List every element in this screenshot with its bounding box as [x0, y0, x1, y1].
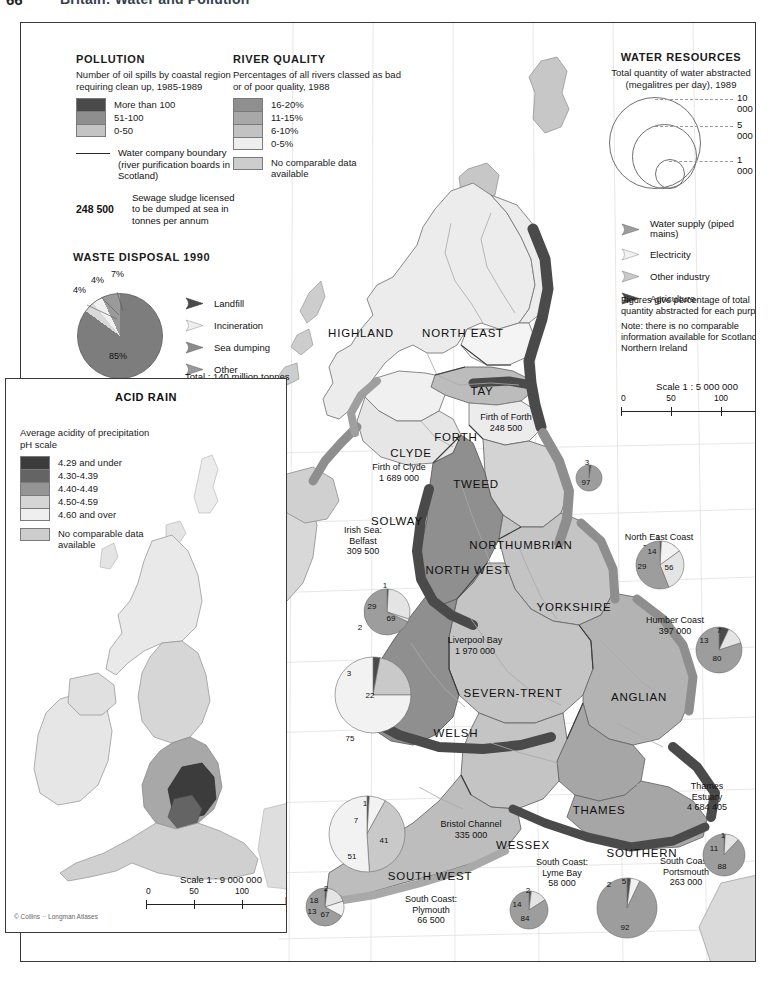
scale-tick — [242, 900, 243, 909]
sludge-label-6: Thames Estuary4 684 405 — [683, 781, 731, 813]
sludge-label-0: Firth of Forth248 500 — [480, 412, 532, 433]
sludge-label-2: Irish Sea:Belfast309 500 — [344, 525, 382, 557]
pie-value-northumbrian-1: 14 — [648, 547, 657, 556]
scale-bar-line — [146, 904, 287, 905]
region-label-highland: HIGHLAND — [328, 327, 394, 339]
pie-chart-north-west — [363, 588, 411, 636]
acid-nodata-label: No comparable data available — [58, 528, 150, 550]
pie-value-south-west-large-2: 41 — [380, 836, 389, 845]
scale-label-0: 0 — [146, 886, 151, 896]
pie-value-south-west-large-1: 7 — [354, 816, 358, 825]
swatch-label: 4.60 and over — [58, 509, 116, 520]
pie-value-southern-small-1: 11 — [710, 844, 718, 853]
region-label-severn-trent: SEVERN-TRENT — [463, 687, 562, 699]
scale-tick — [194, 900, 195, 909]
page-title: Britain: Water and Pollution — [60, 0, 249, 7]
swatch-label: 4.50-4.59 — [58, 496, 98, 507]
region-label-north-east: NORTH EAST — [422, 327, 504, 339]
pie-value-portsmouth-2: 92 — [621, 923, 630, 932]
legend-item: 4.40-4.49 — [20, 482, 180, 495]
pie-value-welsh-0: 3 — [347, 669, 351, 678]
region-label-forth: FORTH — [434, 431, 477, 443]
scale-label-150: 150 km — [285, 886, 287, 906]
swatch-acid-0 — [20, 456, 50, 469]
scale-9m-ruler: 0 50 100 150 km — [146, 895, 287, 911]
pie-value-north-west-0: 1 — [383, 581, 387, 590]
region-label-yorkshire: YORKSHIRE — [537, 601, 612, 613]
pie-value-portsmouth-0: 2 — [607, 880, 611, 889]
scale-9m-title: Scale 1 : 9 000 000 — [146, 874, 287, 885]
region-label-tweed: TWEED — [453, 478, 499, 490]
swatch-acid-nodata — [20, 528, 50, 541]
swatch-label: 4.29 and under — [58, 457, 122, 468]
pie-value-south-west-large-0: 1 — [363, 799, 367, 808]
page-folio-number: 66 — [6, 0, 23, 8]
pie-value-north-west-3: 69 — [387, 614, 396, 623]
region-label-anglian: ANGLIAN — [611, 691, 667, 703]
swatch-label: 4.40-4.49 — [58, 483, 98, 494]
scale-label-50: 50 — [189, 886, 198, 896]
pie-value-lyme-bay-2: 84 — [521, 914, 530, 923]
pie-value-southern-small-2: 88 — [718, 862, 727, 871]
pie-value-plymouth-0: 2 — [324, 884, 328, 893]
pie-value-humber-coast-0: 7 — [717, 626, 721, 635]
region-label-wessex: WESSEX — [496, 839, 550, 851]
legend-item: 4.60 and over — [20, 508, 180, 521]
pie-value-portsmouth-1: 5 — [622, 877, 626, 886]
pie-value-north-east-coast-1: 97 — [582, 478, 591, 487]
pie-value-welsh-1: 22 — [366, 691, 375, 700]
scale-tick — [146, 900, 147, 909]
region-label-thames: THAMES — [573, 804, 626, 816]
legend-item: 4.29 and under — [20, 456, 180, 469]
acid-subtitle-2: pH scale — [20, 439, 180, 451]
region-label-welsh: WELSH — [434, 727, 479, 739]
page-header: 66 Britain: Water and Pollution — [0, 0, 776, 14]
pie-chart-lyme-bay — [509, 890, 549, 930]
pie-value-southern-small-0: 1 — [721, 831, 725, 840]
pie-value-north-west-1: 29 — [368, 602, 377, 611]
scale-bar-9m: Scale 1 : 9 000 000 0 50 100 150 km — [146, 874, 287, 911]
sludge-label-1: Firth of Clyde1 689 000 — [372, 462, 426, 483]
swatch-label: 4.30-4.39 — [58, 470, 98, 481]
swatch-acid-2 — [20, 482, 50, 495]
pie-value-humber-coast-1: 13 — [700, 636, 709, 645]
pie-value-humber-coast-2: 80 — [713, 654, 722, 663]
pie-value-northumbrian-0: 1 — [656, 533, 660, 542]
sludge-label-4: Liverpool Bay1 970 000 — [448, 635, 503, 656]
pie-value-north-east-coast-0: 3 — [585, 458, 589, 467]
acid-subtitle-1: Average acidity of precipitation — [20, 427, 180, 439]
pie-value-welsh-2: 75 — [346, 734, 355, 743]
acid-rain-title: ACID RAIN — [6, 391, 286, 403]
legend-item: 4.30-4.39 — [20, 469, 180, 482]
pie-value-lyme-bay-0: 2 — [526, 886, 530, 895]
sludge-label-7: Bristol Channel335 000 — [440, 819, 501, 840]
copyright-notice: © Collins ·· Longman Atlases — [14, 913, 98, 920]
swatch-acid-1 — [20, 469, 50, 482]
sludge-label-8: South Coast:Lyme Bay58 000 — [536, 857, 588, 889]
pie-value-lyme-bay-1: 14 — [513, 900, 522, 909]
scale-label-100: 100 — [235, 886, 249, 896]
pie-value-north-west-2: 2 — [358, 623, 362, 632]
region-label-tay: TAY — [470, 385, 493, 397]
region-label-north-west: NORTH WEST — [425, 564, 510, 576]
acid-rain-legend: Average acidity of precipitation pH scal… — [20, 427, 180, 550]
pie-value-northumbrian-3: 56 — [665, 563, 674, 572]
region-label-northumbrian: NORTHUMBRIAN — [469, 539, 572, 551]
acid-swatch-list: 4.29 and under 4.30-4.39 4.40-4.49 4.50-… — [20, 456, 180, 521]
swatch-acid-3 — [20, 495, 50, 508]
pie-value-south-west-large-3: 51 — [348, 852, 357, 861]
acid-rain-inset-map[interactable]: ACID RAIN Average acidity of precipitati… — [5, 378, 287, 933]
sludge-label-10: South Coast:Plymouth66 500 — [405, 894, 457, 926]
swatch-acid-4 — [20, 508, 50, 521]
pie-value-plymouth-3: 67 — [321, 910, 330, 919]
pie-value-plymouth-2: 13 — [308, 907, 317, 916]
legend-item: 4.50-4.59 — [20, 495, 180, 508]
pie-value-plymouth-1: 18 — [310, 896, 319, 905]
pie-value-northumbrian-2: 29 — [638, 562, 647, 571]
region-label-clyde: CLYDE — [390, 447, 432, 459]
legend-item-acid-nodata: No comparable data available — [20, 528, 180, 550]
